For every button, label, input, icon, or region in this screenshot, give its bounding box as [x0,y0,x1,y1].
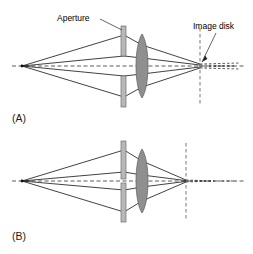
ray-upper-marginal-b [22,150,186,181]
aperture-blade-lower-b [121,183,126,222]
aperture-blade-upper-b [121,141,126,179]
panel-label-b: (B) [12,230,26,242]
aperture-label: Aperture [57,13,90,23]
lens-b [136,149,148,213]
aperture-leader-line [100,19,122,30]
ray-virtual-upper-a [200,63,240,64]
optical-ray-diagram-figure: Aperture Image disk (A) [0,0,253,254]
ray-virtual-lower-a [200,68,240,69]
point-source-a [21,65,24,68]
ray-upper-marginal-a [22,35,200,66]
ray-lower-marginal-a [22,66,200,97]
point-source-b [21,180,24,183]
aperture-blade-lower-a [121,76,126,107]
lens-a [136,34,148,98]
ray-lower-marginal-b [22,181,186,212]
panel-b: (B) [12,141,246,242]
image-disk-leader-line [202,33,216,62]
panel-label-a: (A) [12,112,26,124]
aperture-blade-upper-a [121,26,126,56]
panel-a: Aperture Image disk (A) [12,13,246,124]
image-disk-label: Image disk [193,21,235,31]
